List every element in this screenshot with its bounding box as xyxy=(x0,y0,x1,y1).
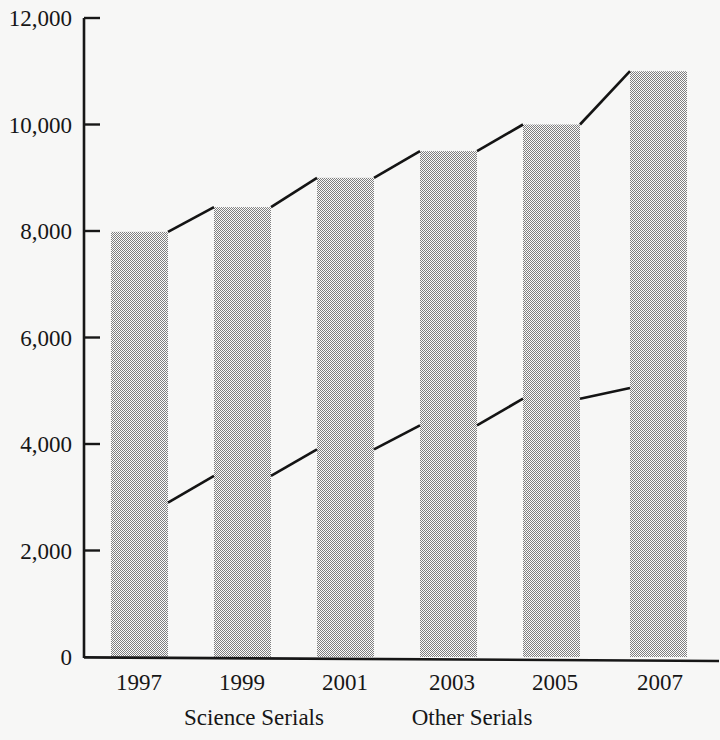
bar-2005 xyxy=(523,125,580,658)
bar-2007 xyxy=(630,71,687,657)
y-tick-label-4000: 4,000 xyxy=(20,432,72,457)
x-tick-label-2005: 2005 xyxy=(532,670,578,695)
y-tick-label-10000: 10,000 xyxy=(9,113,72,138)
chart-page: 12,000 10,000 8,000 6,000 4,000 2,000 0 … xyxy=(0,0,720,740)
legend-label-other-serials: Other Serials xyxy=(412,705,533,730)
serials-bar-chart: 12,000 10,000 8,000 6,000 4,000 2,000 0 … xyxy=(0,0,720,740)
bar-1999 xyxy=(214,207,271,657)
bar-2003 xyxy=(420,151,477,657)
x-tick-label-1999: 1999 xyxy=(219,670,265,695)
y-tick-label-0: 0 xyxy=(61,645,73,670)
y-tick-label-12000: 12,000 xyxy=(9,6,72,31)
x-tick-label-1997: 1997 xyxy=(116,670,162,695)
bar-2001 xyxy=(317,178,374,657)
y-tick-label-6000: 6,000 xyxy=(20,326,72,351)
legend-label-science-serials: Science Serials xyxy=(184,705,324,730)
bar-1997 xyxy=(111,232,168,657)
x-tick-label-2007: 2007 xyxy=(637,670,683,695)
x-tick-label-2003: 2003 xyxy=(429,670,475,695)
y-tick-label-2000: 2,000 xyxy=(20,539,72,564)
y-tick-label-8000: 8,000 xyxy=(20,219,72,244)
x-tick-label-2001: 2001 xyxy=(322,670,368,695)
